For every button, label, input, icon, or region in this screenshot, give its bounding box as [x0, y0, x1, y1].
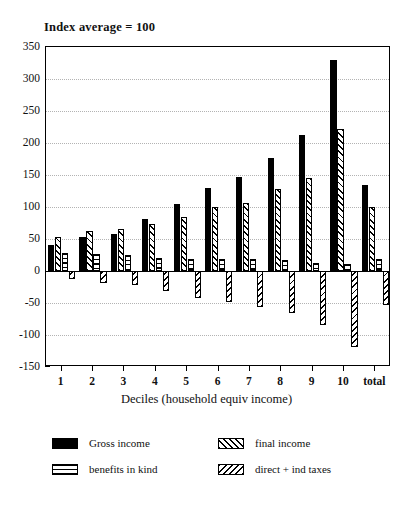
bar-final-income-10	[337, 129, 343, 271]
bar-gross-income-total	[362, 185, 368, 271]
bar-benefits-in-kind-9	[313, 263, 319, 271]
bar-benefits-in-kind-1	[62, 253, 68, 271]
y-tick-label: 300	[0, 72, 40, 84]
x-tick-mark	[374, 366, 375, 371]
x-tick-label-7: 7	[246, 375, 252, 387]
x-tick-label-total: total	[363, 375, 385, 387]
bar-final-income-total	[369, 207, 375, 271]
bar-direct-ind-taxes-total	[383, 271, 389, 305]
y-tick-label: -50	[0, 296, 40, 308]
x-tick-mark	[343, 366, 344, 371]
chart-legend: Gross incomefinal incomebenefits in kind…	[52, 437, 402, 487]
bar-direct-ind-taxes-7	[257, 271, 263, 307]
x-tick-label-1: 1	[58, 375, 64, 387]
x-tick-mark	[92, 366, 93, 371]
bar-final-income-1	[55, 237, 61, 271]
x-tick-label-10: 10	[337, 375, 349, 387]
bar-final-income-2	[86, 231, 92, 271]
bar-gross-income-5	[174, 204, 180, 271]
bar-gross-income-9	[299, 135, 305, 271]
bar-benefits-in-kind-4	[156, 258, 162, 271]
y-tick-label: 150	[0, 168, 40, 180]
plot-area	[45, 46, 390, 366]
y-tick-label: 100	[0, 200, 40, 212]
legend-item: Gross income	[52, 437, 150, 449]
bar-final-income-5	[181, 217, 187, 271]
x-tick-mark	[61, 366, 62, 371]
chart-title: Index average = 100	[44, 20, 155, 35]
gridline	[46, 79, 389, 80]
y-tick-label: 350	[0, 40, 40, 52]
y-tick-label: 200	[0, 136, 40, 148]
legend-item: direct + ind taxes	[218, 463, 331, 475]
bar-gross-income-3	[111, 234, 117, 271]
bar-direct-ind-taxes-10	[351, 271, 357, 347]
bar-direct-ind-taxes-2	[100, 271, 106, 283]
y-tick-label: -150	[0, 360, 40, 372]
x-tick-mark	[123, 366, 124, 371]
bar-final-income-7	[243, 203, 249, 271]
bar-benefits-in-kind-10	[344, 264, 350, 271]
legend-item: final income	[218, 437, 310, 449]
x-tick-mark	[249, 366, 250, 371]
y-tick-label: -100	[0, 328, 40, 340]
bar-gross-income-6	[205, 188, 211, 271]
bar-benefits-in-kind-2	[93, 254, 99, 271]
gridline	[46, 303, 389, 304]
y-tick-label: 50	[0, 232, 40, 244]
bar-gross-income-1	[48, 245, 54, 271]
bar-benefits-in-kind-8	[282, 260, 288, 271]
gridline	[46, 335, 389, 336]
bar-direct-ind-taxes-1	[69, 271, 75, 279]
x-axis-title: Deciles (household equiv income)	[0, 392, 413, 407]
bar-gross-income-4	[142, 219, 148, 271]
x-tick-mark	[186, 366, 187, 371]
bar-final-income-6	[212, 207, 218, 271]
bar-gross-income-2	[79, 237, 85, 271]
bar-final-income-8	[275, 189, 281, 271]
bar-gross-income-8	[268, 158, 274, 271]
bar-final-income-4	[149, 224, 155, 271]
x-tick-label-9: 9	[309, 375, 315, 387]
x-tick-mark	[312, 366, 313, 371]
bar-direct-ind-taxes-4	[163, 271, 169, 291]
legend-swatch-icon	[218, 464, 244, 475]
bar-gross-income-10	[330, 60, 336, 271]
bar-direct-ind-taxes-5	[195, 271, 201, 298]
bar-direct-ind-taxes-8	[289, 271, 295, 313]
legend-swatch-icon	[218, 438, 244, 449]
legend-label: direct + ind taxes	[255, 463, 331, 475]
x-tick-mark	[280, 366, 281, 371]
legend-label: final income	[255, 437, 310, 449]
bar-final-income-3	[118, 229, 124, 271]
x-tick-label-4: 4	[152, 375, 158, 387]
x-tick-label-8: 8	[277, 375, 283, 387]
legend-swatch-icon	[52, 438, 78, 449]
bar-direct-ind-taxes-3	[132, 271, 138, 285]
gridline	[46, 111, 389, 112]
x-tick-mark	[218, 366, 219, 371]
legend-swatch-icon	[52, 464, 78, 475]
legend-label: benefits in kind	[89, 463, 157, 475]
x-tick-mark	[155, 366, 156, 371]
x-tick-label-5: 5	[183, 375, 189, 387]
legend-label: Gross income	[89, 437, 150, 449]
x-tick-label-3: 3	[121, 375, 127, 387]
bar-benefits-in-kind-total	[376, 259, 382, 271]
y-tick-label: 0	[0, 264, 40, 276]
y-tick-label: 250	[0, 104, 40, 116]
bar-final-income-9	[306, 178, 312, 271]
x-tick-label-6: 6	[215, 375, 221, 387]
y-tick-mark	[45, 366, 50, 367]
chart-figure: Index average = 100 35030025020015010050…	[0, 0, 413, 507]
zero-baseline	[46, 271, 389, 272]
bar-benefits-in-kind-3	[125, 255, 131, 271]
bar-gross-income-7	[236, 177, 242, 271]
legend-item: benefits in kind	[52, 463, 157, 475]
bar-benefits-in-kind-7	[250, 259, 256, 271]
plot-inner	[46, 47, 389, 365]
bar-direct-ind-taxes-6	[226, 271, 232, 302]
bar-benefits-in-kind-6	[219, 259, 225, 271]
x-tick-label-2: 2	[89, 375, 95, 387]
bar-direct-ind-taxes-9	[320, 271, 326, 325]
